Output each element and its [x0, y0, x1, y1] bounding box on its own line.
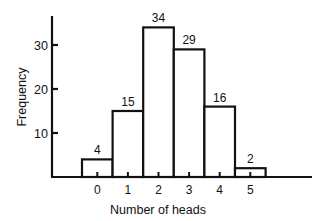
data-label-4: 16 — [213, 91, 227, 105]
x-tick-label: 4 — [216, 183, 223, 197]
x-tick-label: 1 — [125, 183, 132, 197]
bar-3 — [174, 49, 205, 177]
y-tick-label: 30 — [34, 39, 48, 53]
y-tick-label: 20 — [34, 83, 48, 97]
data-label-1: 15 — [121, 95, 135, 109]
x-tick-label: 2 — [155, 183, 162, 197]
x-axis-label: Number of heads — [110, 203, 206, 217]
x-tick-label: 3 — [186, 183, 193, 197]
bar-1 — [113, 111, 144, 177]
data-label-2: 34 — [152, 11, 166, 25]
data-label-5: 2 — [247, 152, 254, 166]
y-tick-label: 10 — [34, 127, 48, 141]
x-tick-label: 5 — [247, 183, 254, 197]
bar-4 — [204, 107, 235, 177]
bars-group — [82, 27, 266, 177]
data-label-3: 29 — [182, 33, 196, 47]
bar-2 — [143, 27, 174, 177]
y-ticks-group: 102030 — [34, 39, 58, 141]
histogram-chart: 4153429162 102030 012345 Number of heads… — [0, 0, 314, 221]
x-tick-label: 0 — [94, 183, 101, 197]
y-axis-label: Frequency — [15, 67, 29, 127]
data-label-0: 4 — [94, 143, 101, 157]
